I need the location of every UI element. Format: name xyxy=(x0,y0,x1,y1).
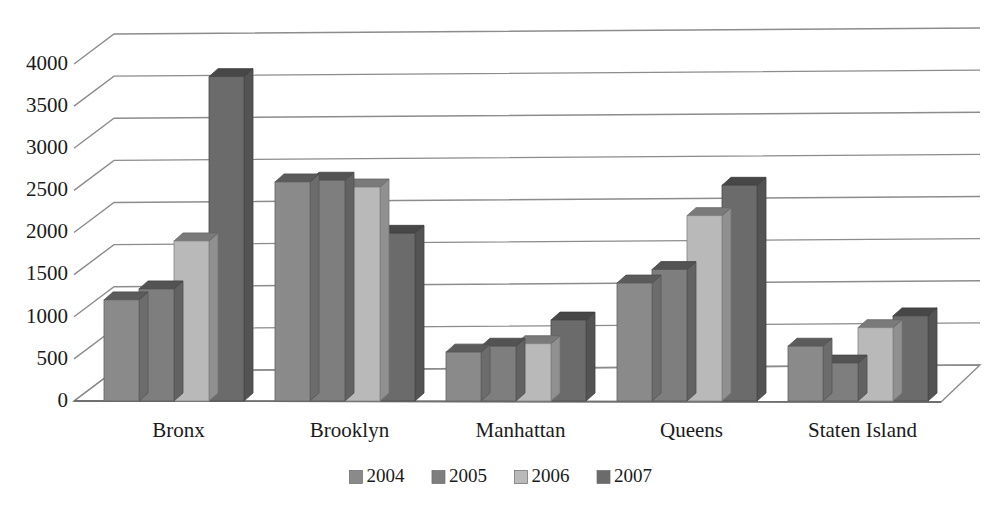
bar-side-face xyxy=(415,225,424,401)
bar-manhattan-2004 xyxy=(446,344,490,401)
y-tick-label: 2500 xyxy=(26,177,68,201)
bar-staten-island-2004 xyxy=(788,338,832,401)
bar-side-face xyxy=(481,344,490,401)
y-tick-label: 4000 xyxy=(26,51,68,75)
y-tick-label: 500 xyxy=(37,346,69,370)
legend-label-2004: 2004 xyxy=(366,465,405,486)
bar-side-face xyxy=(928,308,937,401)
bar-side-face xyxy=(823,338,832,401)
bar-side-face xyxy=(174,281,183,401)
y-tick-label: 3500 xyxy=(26,93,68,117)
legend-swatch-2006 xyxy=(515,471,528,484)
y-tick-label: 2000 xyxy=(26,219,68,243)
bar-side-face xyxy=(209,233,218,401)
bar-side-face xyxy=(757,177,766,401)
bar-side-face xyxy=(722,208,731,401)
bar-side-face xyxy=(687,262,696,401)
y-tick-label: 1500 xyxy=(26,261,68,285)
bar-side-face xyxy=(652,275,661,401)
bar-side-face xyxy=(345,172,354,401)
bar-queens-2004 xyxy=(617,275,661,401)
bar-front-face xyxy=(617,283,652,401)
bar-side-face xyxy=(380,179,389,401)
bar-side-face xyxy=(586,312,595,401)
legend-swatch-2004 xyxy=(349,471,362,484)
bar-front-face xyxy=(788,346,823,401)
bar-chart: 05001000150020002500300035004000 BronxBr… xyxy=(0,0,1003,506)
x-category-label-manhattan: Manhattan xyxy=(476,418,566,442)
legend-label-2005: 2005 xyxy=(449,465,487,486)
bar-side-face xyxy=(244,69,253,401)
x-category-label-bronx: Bronx xyxy=(152,418,205,442)
bar-brooklyn-2004 xyxy=(275,174,319,401)
bar-bronx-2004 xyxy=(104,292,148,401)
y-tick-label: 3000 xyxy=(26,135,68,159)
bar-front-face xyxy=(275,182,310,401)
x-category-label-staten-island: Staten Island xyxy=(808,418,918,442)
chart-container: 05001000150020002500300035004000 BronxBr… xyxy=(0,0,1003,506)
bar-front-face xyxy=(446,352,481,401)
bar-side-face xyxy=(139,292,148,401)
bar-side-face xyxy=(310,174,319,401)
legend-swatch-2007 xyxy=(597,471,610,484)
bar-side-face xyxy=(893,320,902,401)
x-category-label-queens: Queens xyxy=(660,418,723,442)
y-tick-label: 1000 xyxy=(26,304,68,328)
legend-swatch-2005 xyxy=(432,471,445,484)
bar-side-face xyxy=(516,338,525,401)
legend-label-2007: 2007 xyxy=(614,465,652,486)
x-category-label-brooklyn: Brooklyn xyxy=(310,418,390,442)
bar-side-face xyxy=(551,336,560,401)
legend-label-2006: 2006 xyxy=(532,465,570,486)
bar-front-face xyxy=(104,300,139,401)
y-tick-label: 0 xyxy=(58,388,69,412)
